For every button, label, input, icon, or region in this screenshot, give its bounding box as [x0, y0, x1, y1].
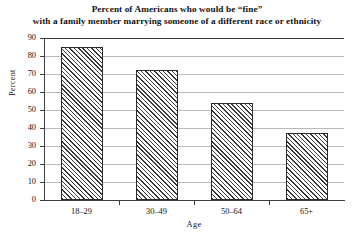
y-axis-tick-label: 80	[12, 52, 36, 60]
y-axis-tick-label: 0	[12, 196, 36, 204]
y-axis-tick-label: 40	[12, 124, 36, 132]
y-axis-tick-label: 70	[12, 70, 36, 78]
y-axis-tick	[40, 38, 44, 39]
y-axis-tick	[40, 146, 44, 147]
bar	[61, 47, 103, 200]
x-axis-tick-label: 18–29	[44, 207, 119, 216]
y-axis-tick	[40, 110, 44, 111]
x-axis-tick-label: 30–49	[119, 207, 194, 216]
y-axis-tick	[40, 164, 44, 165]
x-axis-tick	[269, 201, 270, 205]
x-axis-tick-label: 65+	[269, 207, 344, 216]
y-axis-tick	[40, 74, 44, 75]
y-axis-tick	[40, 128, 44, 129]
chart-title: Percent of Americans who would be “fine”…	[0, 4, 354, 27]
plot-area: 18–2930–4950–6465+	[44, 38, 344, 200]
y-axis-tick-label: 60	[12, 88, 36, 96]
y-axis-tick-label: 30	[12, 142, 36, 150]
bar	[211, 103, 253, 200]
x-axis-tick	[119, 201, 120, 205]
y-axis-line	[44, 38, 45, 201]
chart-title-line-2: with a family member marrying someone of…	[0, 16, 354, 28]
y-axis-tick	[40, 56, 44, 57]
y-axis-tick-label: 50	[12, 106, 36, 114]
x-axis-title: Age	[44, 220, 344, 229]
plot-frame-top-border	[44, 38, 344, 39]
y-axis-tick-label: 90	[12, 34, 36, 42]
y-axis-tick	[40, 200, 44, 201]
bar	[286, 133, 328, 200]
y-axis-tick	[40, 182, 44, 183]
chart-title-line-1: Percent of Americans who would be “fine”	[0, 4, 354, 16]
y-axis-tick-label: 20	[12, 160, 36, 168]
bar	[136, 70, 178, 200]
y-axis-tick-label: 10	[12, 178, 36, 186]
x-axis-tick	[194, 201, 195, 205]
x-axis-tick-label: 50–64	[194, 207, 269, 216]
bar-chart-figure: Percent of Americans who would be “fine”…	[0, 0, 354, 250]
y-axis-tick	[40, 92, 44, 93]
